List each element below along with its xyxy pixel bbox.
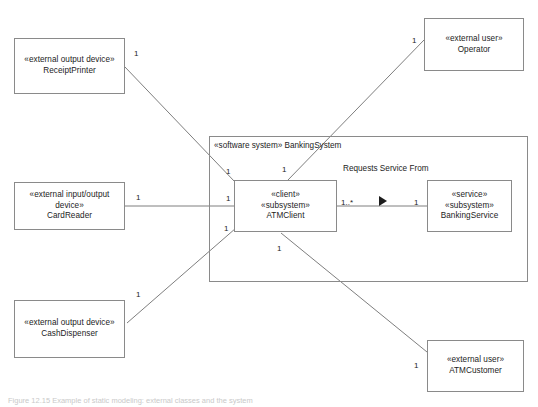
atmcustomer-name: ATMCustomer	[449, 366, 502, 377]
multiplicity-operator-end: 1	[412, 37, 416, 45]
multiplicity-cashdispenser-client-end: 1	[224, 225, 228, 233]
multiplicity-operator-client-end: 1	[282, 166, 286, 174]
banking-system-name: BankingSystem	[285, 141, 342, 150]
node-operator[interactable]: «external user» Operator	[424, 18, 524, 71]
cardreader-stereotype-line2: device»	[55, 201, 84, 212]
node-atmclient[interactable]: «client» «subsystem» ATMClient	[234, 180, 337, 232]
atmclient-name: ATMClient	[266, 211, 304, 222]
bankingservice-stereotype: «service»	[452, 190, 488, 201]
bankingservice-name: BankingService	[441, 211, 499, 222]
association-label: Requests Service From	[343, 163, 421, 174]
receiptprinter-name: ReceiptPrinter	[43, 66, 96, 77]
multiplicity-cashdispenser-end: 1	[136, 291, 140, 299]
node-receiptprinter[interactable]: «external output device» ReceiptPrinter	[14, 38, 125, 94]
atmcustomer-stereotype: «external user»	[447, 355, 504, 366]
receiptprinter-stereotype: «external output device»	[24, 55, 114, 66]
cardreader-name: CardReader	[47, 211, 92, 222]
operator-stereotype: «external user»	[445, 34, 502, 45]
node-cashdispenser[interactable]: «external output device» CashDispenser	[14, 300, 125, 358]
node-atmcustomer[interactable]: «external user» ATMCustomer	[427, 340, 524, 392]
cashdispenser-name: CashDispenser	[41, 329, 98, 340]
node-bankingservice[interactable]: «service» «subsystem» BankingService	[427, 180, 512, 232]
node-cardreader[interactable]: «external input/output device» CardReade…	[14, 182, 125, 230]
banking-system-stereotype: «software system»	[214, 141, 282, 150]
multiplicity-receiptprinter-client-end: 1	[226, 168, 230, 176]
cardreader-stereotype-line1: «external input/output	[30, 190, 110, 201]
multiplicity-atmcustomer-end: 1	[414, 362, 418, 370]
association-direction-arrow-icon	[379, 196, 387, 206]
banking-system-label: «software system» BankingSystem	[214, 140, 341, 151]
atmclient-stereotype: «client»	[271, 190, 300, 201]
diagram-canvas: «software system» BankingSystem «externa…	[0, 0, 538, 407]
multiplicity-cardreader-client-end: 1	[226, 195, 230, 203]
multiplicity-bankingservice-end: 1	[414, 199, 418, 207]
association-label-line2: From	[409, 164, 428, 173]
bankingservice-stereotype2: «subsystem»	[445, 201, 494, 212]
atmclient-stereotype2: «subsystem»	[261, 201, 310, 212]
multiplicity-cardreader-end: 1	[136, 194, 140, 202]
figure-caption: Figure 12.15 Example of static modeling:…	[8, 396, 253, 405]
operator-name: Operator	[458, 45, 491, 56]
multiplicity-receiptprinter-end: 1	[134, 50, 138, 58]
cashdispenser-stereotype: «external output device»	[24, 318, 114, 329]
multiplicity-atmcustomer-client-end: 1	[277, 245, 281, 253]
multiplicity-atmclient-to-bankingservice: 1..*	[341, 199, 353, 207]
association-label-line1: Requests Service	[343, 164, 407, 173]
